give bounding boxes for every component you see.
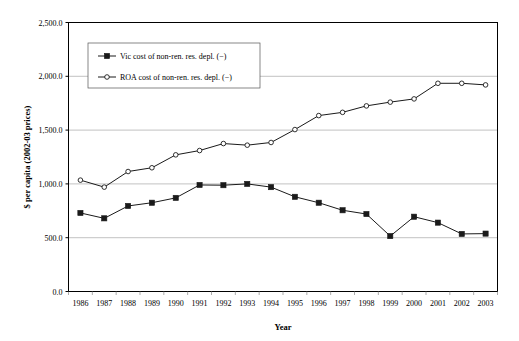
x-tick-label: 1989 <box>144 299 160 308</box>
legend-item-label: Vic cost of non-ren. res. depl. (−) <box>120 52 227 61</box>
data-point-marker <box>173 195 178 200</box>
chart-container: 0.0500.01,000.01,500.02,000.02,500.0 198… <box>0 0 519 341</box>
data-point-marker <box>459 81 464 86</box>
y-tick-label: 500.0 <box>45 234 63 243</box>
y-axis-title: $ per capita (2002-03 prices) <box>22 105 32 208</box>
x-tick-label: 1997 <box>335 299 351 308</box>
data-point-marker <box>316 200 321 205</box>
data-point-marker <box>459 231 464 236</box>
x-tick-label: 2003 <box>478 299 494 308</box>
data-point-marker <box>483 231 488 236</box>
chart-legend[interactable]: Vic cost of non-ren. res. depl. (−)ROA c… <box>88 43 260 88</box>
data-point-marker <box>436 81 441 86</box>
x-axis-title: Year <box>275 322 292 332</box>
y-tick-label: 0.0 <box>53 288 63 297</box>
legend-item-label: ROA cost of non-ren. res. depl. (−) <box>120 73 232 82</box>
x-tick-label: 1994 <box>263 299 279 308</box>
data-point-marker <box>125 203 130 208</box>
y-axis-title-label: $ per capita (2002-03 prices) <box>22 105 32 208</box>
x-tick-label: 2002 <box>454 299 470 308</box>
data-point-marker <box>293 127 298 132</box>
legend-marker-circle-icon <box>105 75 110 80</box>
line-chart: 0.0500.01,000.01,500.02,000.02,500.0 198… <box>0 0 519 341</box>
data-point-marker <box>364 104 369 109</box>
y-tick-label: 1,500.0 <box>39 126 63 135</box>
data-point-marker <box>388 100 393 105</box>
x-tick-label: 2000 <box>406 299 422 308</box>
x-tick-label: 1999 <box>382 299 398 308</box>
data-point-marker <box>126 169 131 174</box>
x-tick-label: 1998 <box>358 299 374 308</box>
data-point-marker <box>269 140 274 145</box>
data-point-marker <box>340 208 345 213</box>
data-point-marker <box>268 185 273 190</box>
data-point-marker <box>221 141 226 146</box>
data-point-marker <box>412 97 417 102</box>
data-point-marker <box>102 185 107 190</box>
data-point-marker <box>102 216 107 221</box>
y-tick-label: 1,000.0 <box>39 180 63 189</box>
data-point-marker <box>173 153 178 158</box>
data-point-marker <box>292 194 297 199</box>
x-tick-label: 1991 <box>192 299 208 308</box>
data-point-marker <box>245 181 250 186</box>
data-point-marker <box>149 200 154 205</box>
data-point-marker <box>197 148 202 153</box>
x-tick-label: 1986 <box>72 299 88 308</box>
y-tick-label: 2,000.0 <box>39 72 63 81</box>
data-point-marker <box>340 110 345 115</box>
data-point-marker <box>221 183 226 188</box>
x-tick-label: 1988 <box>120 299 136 308</box>
y-tick-label: 2,500.0 <box>39 19 63 28</box>
x-tick-label: 1996 <box>311 299 327 308</box>
x-tick-label: 1995 <box>287 299 303 308</box>
data-point-marker <box>78 210 83 215</box>
data-point-marker <box>245 143 250 148</box>
data-point-marker <box>316 113 321 118</box>
data-point-marker <box>150 165 155 170</box>
data-point-marker <box>483 83 488 88</box>
data-point-marker <box>435 220 440 225</box>
legend-marker-square-icon <box>104 53 109 58</box>
data-point-marker <box>411 214 416 219</box>
x-tick-label: 2001 <box>430 299 446 308</box>
data-point-marker <box>364 211 369 216</box>
x-tick-label: 1992 <box>215 299 231 308</box>
x-axis-title-label: Year <box>275 322 292 332</box>
x-tick-label: 1990 <box>168 299 184 308</box>
x-tick-label: 1993 <box>239 299 255 308</box>
data-point-marker <box>388 233 393 238</box>
x-tick-label: 1987 <box>96 299 112 308</box>
data-point-marker <box>78 178 83 183</box>
data-point-marker <box>197 182 202 187</box>
